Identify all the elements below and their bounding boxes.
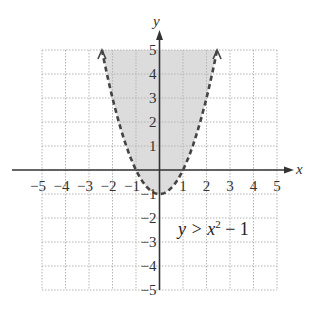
x-tick-label: −1 [124, 178, 140, 194]
x-tick-label: 3 [226, 178, 234, 194]
y-tick-label: −1 [141, 186, 157, 202]
y-axis-arrow-icon [156, 30, 163, 40]
y-tick-label: 3 [149, 90, 157, 106]
inequality-graph: −5−4−3−2−11234554321−1−2−3−4−5 x y y > x… [0, 0, 319, 314]
y-tick-label: −5 [141, 282, 157, 298]
x-tick-label: 2 [203, 178, 211, 194]
x-tick-label: 5 [273, 178, 281, 194]
x-axis-label: x [295, 161, 303, 177]
x-tick-label: −4 [54, 178, 70, 194]
x-tick-label: 4 [250, 178, 258, 194]
y-tick-label: 2 [149, 114, 157, 130]
x-tick-label: −2 [101, 178, 117, 194]
y-tick-label: −4 [141, 258, 157, 274]
y-tick-label: 4 [149, 66, 157, 82]
y-axis-label: y [151, 13, 160, 29]
y-tick-label: −3 [141, 234, 157, 250]
x-axis-arrow-icon [284, 167, 294, 174]
y-tick-label: 5 [149, 42, 157, 58]
inequality-annotation: y > x2 − 1 [176, 218, 249, 239]
y-tick-label: 1 [149, 138, 157, 154]
inequality-lhs: y > x [176, 219, 215, 239]
y-tick-label: −2 [141, 210, 157, 226]
x-tick-label: 1 [179, 178, 187, 194]
x-tick-label: −5 [30, 178, 46, 194]
x-tick-label: −3 [77, 178, 93, 194]
inequality-rhs: − 1 [221, 219, 249, 239]
